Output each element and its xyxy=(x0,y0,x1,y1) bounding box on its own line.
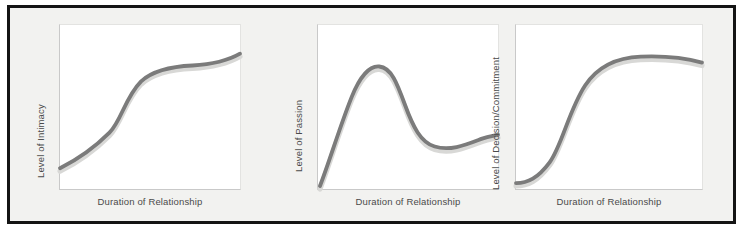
plot-svg-passion xyxy=(318,25,498,189)
y-axis-label-commitment: Level of Decision/Commitment xyxy=(490,57,501,190)
panel-passion: Level of Passion Duration of Relationshi… xyxy=(246,8,494,221)
figure-root: Level of Intimacy Duration of Relationsh… xyxy=(0,0,743,231)
curve-passion xyxy=(320,66,498,186)
plot-area-intimacy xyxy=(59,24,241,190)
x-axis-label-commitment: Duration of Relationship xyxy=(515,196,703,207)
y-axis-label-passion: Level of Passion xyxy=(293,100,304,172)
curve-intimacy xyxy=(60,54,240,169)
x-axis-label-intimacy: Duration of Relationship xyxy=(59,196,241,207)
plot-area-commitment xyxy=(515,24,703,190)
plot-svg-commitment xyxy=(516,25,702,189)
x-axis-label-passion: Duration of Relationship xyxy=(317,196,499,207)
y-axis-label-intimacy: Level of Intimacy xyxy=(35,104,46,178)
plot-svg-intimacy xyxy=(60,25,240,189)
curve-commitment xyxy=(516,56,702,183)
plot-area-passion xyxy=(317,24,499,190)
panel-intimacy: Level of Intimacy Duration of Relationsh… xyxy=(10,8,246,221)
panel-commitment: Level of Decision/Commitment Duration of… xyxy=(494,8,733,221)
curve-shadow-passion xyxy=(320,69,498,189)
figure-frame: Level of Intimacy Duration of Relationsh… xyxy=(7,5,736,224)
